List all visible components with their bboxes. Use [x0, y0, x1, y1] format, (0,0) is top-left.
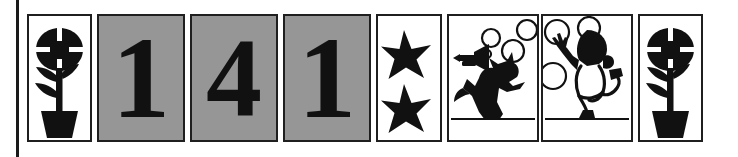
card-flower-left[interactable]: [27, 14, 92, 142]
worksheet-strip: 1 4 1: [0, 0, 738, 157]
two-stars-icon: [378, 16, 440, 140]
flower-in-pot-icon: [29, 16, 90, 140]
flower-in-pot-icon: [640, 16, 701, 140]
digit-label: 1: [285, 20, 369, 136]
left-margin-rule: [16, 0, 19, 157]
card-digit-one-first[interactable]: 1: [97, 14, 185, 142]
card-row: 1 4 1: [27, 14, 708, 142]
card-flower-right[interactable]: [638, 14, 703, 142]
card-digit-four[interactable]: 4: [190, 14, 278, 142]
cat-with-trumpet-icon: [449, 16, 537, 140]
digit-label: 4: [192, 22, 276, 134]
card-digit-one-second[interactable]: 1: [283, 14, 371, 142]
card-cat-trumpet[interactable]: [447, 14, 539, 142]
card-dancing-child[interactable]: [541, 14, 633, 142]
digit-label: 1: [99, 20, 183, 136]
card-two-stars[interactable]: [376, 14, 442, 142]
dancing-child-icon: [543, 16, 631, 140]
